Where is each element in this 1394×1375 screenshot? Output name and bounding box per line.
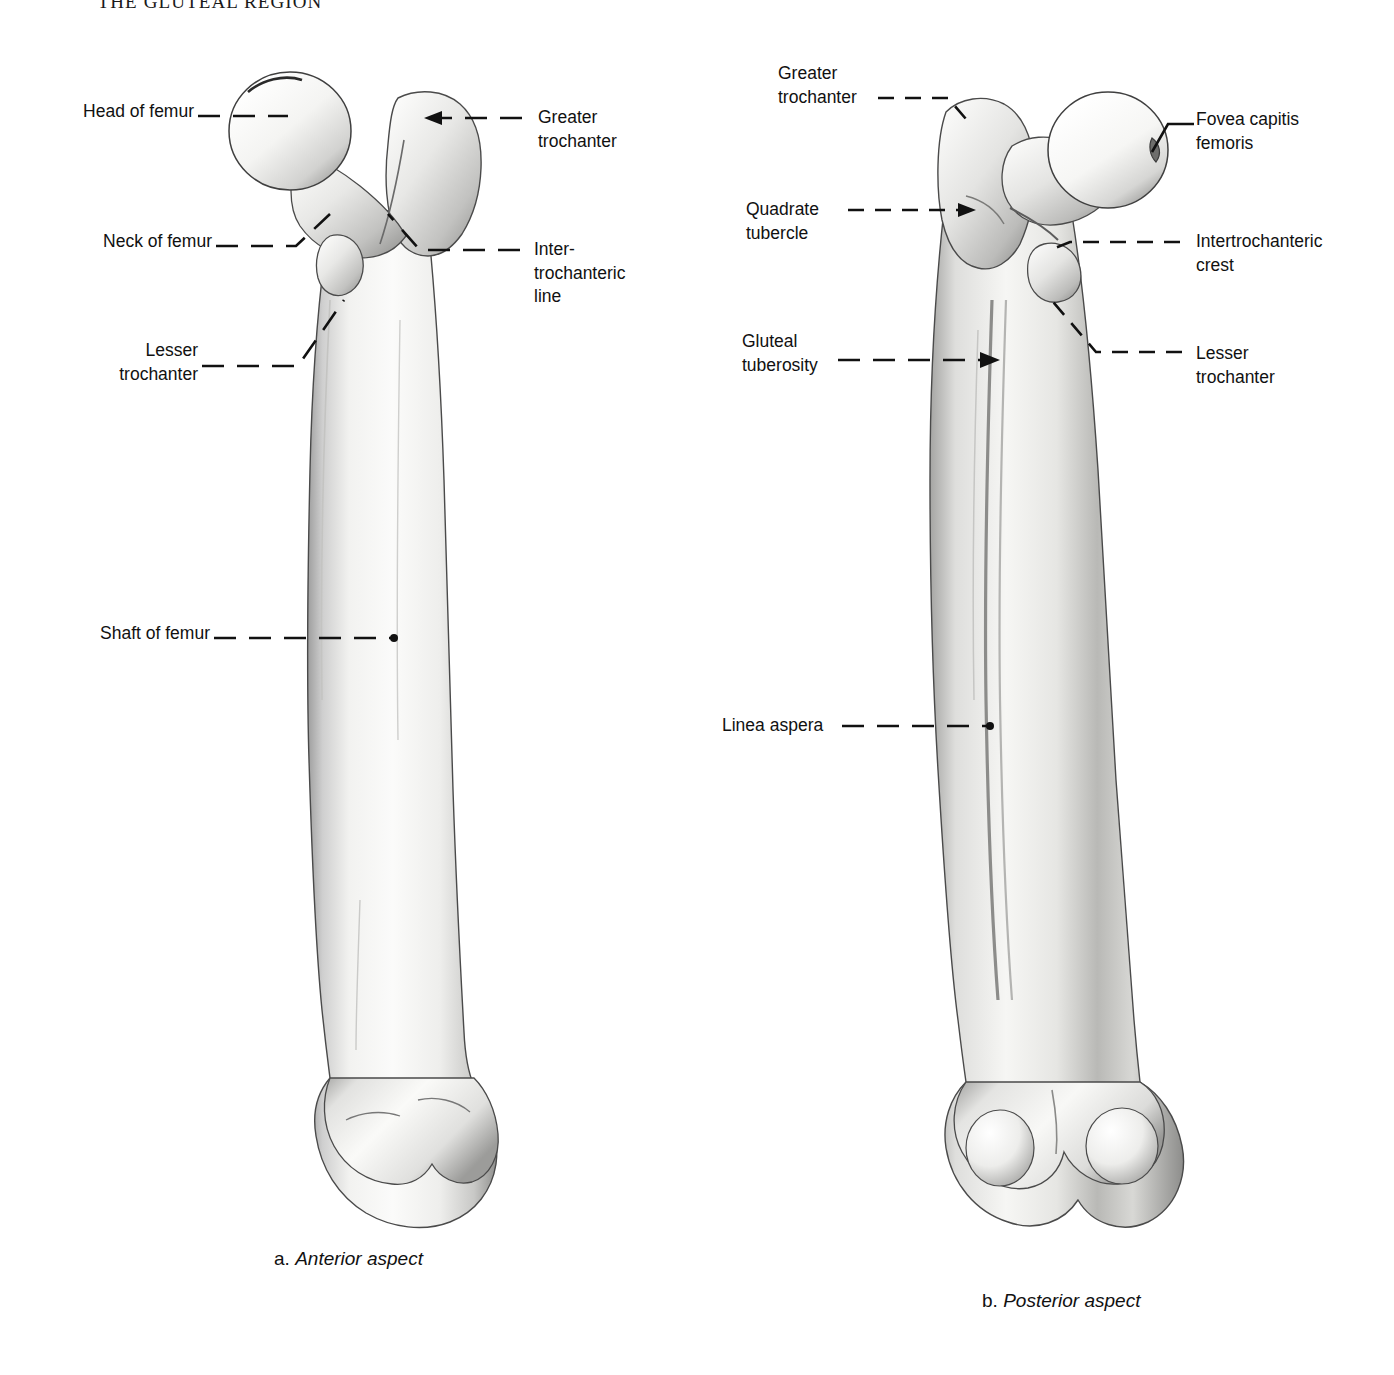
- femur-anterior-bone: [229, 72, 498, 1228]
- leaders-figure-b: [838, 98, 1194, 730]
- femur-illustration: [0, 0, 1394, 1375]
- caption-a-letter: a.: [274, 1248, 290, 1269]
- leader-fovea-capitis-femoris: [1152, 124, 1194, 152]
- label-intertrochanteric-line: Inter- trochanteric line: [534, 238, 754, 309]
- leader-intertrochanteric-line: [388, 214, 520, 250]
- leaders-figure-a: [198, 111, 522, 642]
- caption-b-text: Posterior aspect: [1003, 1290, 1140, 1311]
- running-head: THE GLUTEAL REGION: [0, 0, 420, 13]
- label-head-of-femur: Head of femur: [14, 100, 194, 124]
- label-linea-aspera: Linea aspera: [722, 714, 932, 738]
- label-intertrochanteric-crest: Intertrochanteric crest: [1196, 230, 1394, 277]
- femur-posterior-bone: [930, 92, 1184, 1227]
- leader-lesser-trochanter-a: [202, 300, 344, 366]
- label-quadrate-tubercle: Quadrate tubercle: [746, 198, 956, 245]
- label-greater-trochanter-a: Greater trochanter: [538, 106, 758, 153]
- leader-dot-linea-aspera: [986, 722, 994, 730]
- label-gluteal-tuberosity: Gluteal tuberosity: [742, 330, 952, 377]
- label-lesser-trochanter-b: Lesser trochanter: [1196, 342, 1394, 389]
- caption-a-text: Anterior aspect: [295, 1248, 423, 1269]
- label-shaft-of-femur: Shaft of femur: [14, 622, 210, 646]
- label-greater-trochanter-b: Greater trochanter: [778, 62, 988, 109]
- arrowhead-quadrate-tubercle: [958, 203, 976, 217]
- leader-neck-of-femur: [216, 214, 330, 246]
- label-neck-of-femur: Neck of femur: [14, 230, 212, 254]
- anatomy-plate: THE GLUTEAL REGION: [0, 0, 1394, 1375]
- arrowhead-gluteal-tuberosity: [980, 352, 1000, 368]
- label-fovea-capitis-femoris: Fovea capitis femoris: [1196, 108, 1394, 155]
- leader-intertrochanteric-crest: [1050, 242, 1180, 250]
- caption-figure-a: a. Anterior aspect: [274, 1248, 423, 1270]
- arrowhead-greater-trochanter-a: [424, 111, 442, 125]
- caption-figure-b: b. Posterior aspect: [982, 1290, 1140, 1312]
- leader-dot-shaft: [390, 634, 398, 642]
- label-lesser-trochanter-a: Lesser trochanter: [14, 339, 198, 386]
- caption-b-letter: b.: [982, 1290, 998, 1311]
- leader-lesser-trochanter-b: [1048, 296, 1182, 352]
